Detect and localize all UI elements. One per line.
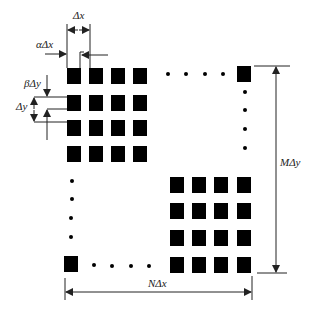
array-diagram: Δx αΔx βΔy Δy MΔy NΔx [0, 0, 317, 314]
delta-y-label: Δy [15, 100, 27, 112]
bottom-right-element-grid [170, 177, 251, 273]
top-left-element-grid [67, 68, 147, 162]
bottom-left-element [64, 256, 78, 272]
beta-delta-y-label: βΔy [23, 77, 41, 89]
delta-x-label: Δx [72, 9, 84, 21]
alpha-delta-x-label: αΔx [36, 38, 53, 50]
alpha-delta-x-dimension [45, 52, 108, 68]
m-delta-y-label: MΔy [279, 156, 301, 168]
top-right-element [237, 66, 251, 82]
delta-x-dimension [67, 24, 90, 68]
m-delta-y-dimension [254, 66, 290, 273]
n-delta-x-label: NΔx [147, 277, 167, 289]
